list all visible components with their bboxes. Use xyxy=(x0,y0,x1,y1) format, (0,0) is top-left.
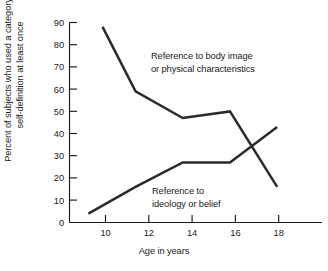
y-tick-label: 90 xyxy=(54,18,64,28)
ideology-annotation: Reference to ideology or belief xyxy=(152,186,221,209)
y-axis-tick-labels: 90 80 70 60 50 40 30 20 10 0 xyxy=(54,18,64,228)
y-tick-label: 10 xyxy=(54,196,64,206)
y-tick-label: 40 xyxy=(54,129,64,139)
y-tick-label: 0 xyxy=(59,218,64,228)
y-tick-label: 20 xyxy=(54,173,64,183)
x-axis-ticks xyxy=(106,215,279,223)
x-tick-label: 10 xyxy=(100,228,110,238)
x-tick-label: 14 xyxy=(187,228,197,238)
x-tick-label: 12 xyxy=(144,228,154,238)
ideology-annotation-line-1: Reference to xyxy=(152,186,204,196)
body-image-annotation: Reference to body image or physical char… xyxy=(151,51,255,74)
y-tick-label: 60 xyxy=(54,85,64,95)
x-axis-title: Age in years xyxy=(0,246,328,256)
body-image-annotation-line-2: or physical characteristics xyxy=(151,64,255,74)
plot-area: 90 80 70 60 50 40 30 20 10 0 10 12 14 16… xyxy=(0,0,328,271)
y-tick-label: 80 xyxy=(54,40,64,50)
line-chart: Percent of subjects who used a category … xyxy=(0,0,328,271)
ideology-annotation-line-2: ideology or belief xyxy=(152,199,221,209)
y-axis-ticks xyxy=(70,23,78,201)
x-axis-tick-labels: 10 12 14 16 18 xyxy=(100,228,283,238)
body-image-annotation-line-1: Reference to body image xyxy=(151,51,253,61)
y-tick-label: 30 xyxy=(54,151,64,161)
y-tick-label: 50 xyxy=(54,107,64,117)
x-tick-label: 18 xyxy=(274,228,284,238)
x-tick-label: 16 xyxy=(230,228,240,238)
y-tick-label: 70 xyxy=(54,62,64,72)
